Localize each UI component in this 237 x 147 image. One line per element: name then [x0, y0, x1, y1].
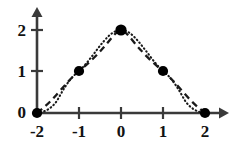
x-tick-label-0: 0	[107, 123, 135, 140]
smooth-curve-path	[37, 30, 205, 113]
data-point	[115, 24, 126, 35]
dashed-curve-path	[37, 30, 205, 113]
chart-figure: 2 1 0 -2 -1 0 1 2	[0, 0, 237, 147]
x-tick-label-minus-2: -2	[23, 123, 51, 140]
y-axis-arrow-icon	[32, 7, 43, 17]
data-points	[32, 24, 210, 118]
data-point	[158, 66, 168, 76]
y-tick-label-0: 0	[8, 104, 26, 121]
y-tick-label-1: 1	[8, 63, 26, 80]
x-tick-label-minus-1: -1	[65, 123, 93, 140]
x-tick-label-2: 2	[191, 123, 219, 140]
x-tick-label-1: 1	[149, 123, 177, 140]
y-tick-label-2: 2	[8, 22, 26, 39]
data-point	[200, 108, 210, 118]
data-point	[74, 66, 84, 76]
data-point	[32, 108, 42, 118]
x-axis-arrow-icon	[219, 108, 229, 119]
